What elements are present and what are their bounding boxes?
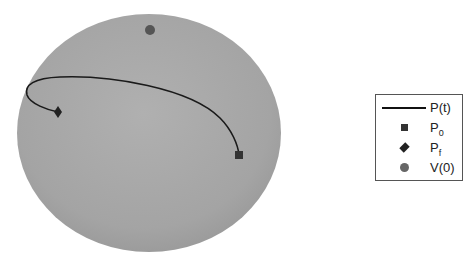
legend-label-pf: Pf (430, 140, 441, 161)
legend-label-p0: P0 (430, 120, 444, 141)
sphere (17, 14, 281, 252)
marker-v0-circle (145, 25, 155, 35)
legend-item-p0: P0 (376, 119, 462, 139)
diamond-icon (399, 142, 409, 152)
circle-icon (400, 163, 409, 172)
line-icon (382, 107, 426, 109)
square-icon (401, 124, 408, 131)
legend-item-pf: Pf (376, 139, 462, 159)
legend-item-pt: P(t) (376, 99, 462, 119)
marker-p0-square (235, 151, 243, 159)
legend-label-v0: V(0) (430, 160, 455, 176)
legend-label-pt: P(t) (430, 100, 451, 116)
legend: P(t) P0 Pf V(0) (375, 94, 463, 181)
legend-item-v0: V(0) (376, 159, 462, 179)
